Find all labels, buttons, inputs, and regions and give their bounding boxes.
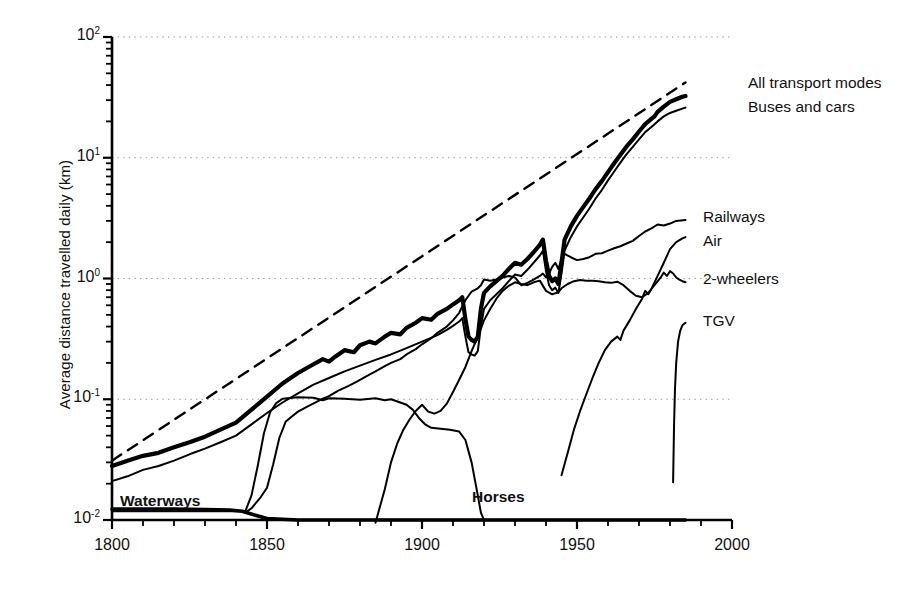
axis-ticks-group xyxy=(103,37,732,529)
series-line-2-wheelers xyxy=(376,271,686,523)
series-line-air xyxy=(562,237,686,475)
series-annotation-horses: Horses xyxy=(472,488,525,506)
series-line-trend-exponential xyxy=(112,82,686,460)
y-tick-label-100: 102 xyxy=(40,26,100,44)
series-annotation-tgv: TGV xyxy=(703,312,735,330)
y-tick-label-0.01: 10-2 xyxy=(40,509,100,527)
y-tick-label-10: 101 xyxy=(40,147,100,165)
x-tick-label-1950: 1950 xyxy=(537,536,617,554)
series-annotation-buses-and-cars: Buses and cars xyxy=(748,98,855,116)
y-tick-label-0.1: 10-1 xyxy=(40,388,100,406)
series-line-buses-and-cars xyxy=(112,108,686,481)
figure-root: Average distance travelled daily (km) 18… xyxy=(0,0,901,594)
x-tick-label-1850: 1850 xyxy=(227,536,307,554)
x-tick-label-1900: 1900 xyxy=(382,536,462,554)
data-series-group xyxy=(112,82,686,522)
series-line-tgv xyxy=(673,323,685,483)
x-tick-label-2000: 2000 xyxy=(692,536,772,554)
series-annotation-railways: Railways xyxy=(703,208,765,226)
y-tick-label-1: 100 xyxy=(40,268,100,286)
series-annotation-waterways: Waterways xyxy=(120,492,200,510)
series-annotation-two-wheelers: 2-wheelers xyxy=(703,270,779,288)
series-annotation-all-transport-modes: All transport modes xyxy=(748,74,882,92)
x-tick-label-1800: 1800 xyxy=(72,536,152,554)
series-line-waterways xyxy=(112,509,686,520)
series-annotation-air: Air xyxy=(703,232,722,250)
